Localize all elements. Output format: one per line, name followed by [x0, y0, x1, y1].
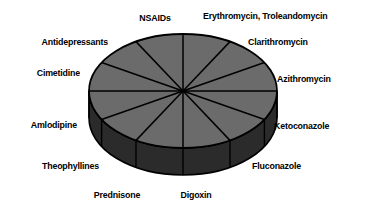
- label-azithromycin: Azithromycin: [277, 73, 331, 84]
- pie-top-face: [89, 34, 277, 148]
- label-digoxin: Digoxin: [168, 189, 224, 200]
- label-amlodipine: Amlodipine: [5, 119, 77, 130]
- label-theophyllines: Theophyllines: [7, 160, 99, 171]
- label-fluconazole: Fluconazole: [252, 160, 301, 171]
- pie-chart-graphic: [0, 0, 373, 211]
- label-nsaids: NSAIDs: [113, 12, 197, 23]
- label-clarithromycin: Clarithromycin: [248, 36, 308, 47]
- label-ketoconazole: Ketoconazole: [274, 120, 329, 131]
- label-antidepressants: Antidepressants: [8, 36, 108, 47]
- label-erythromycin-troleandomycin: Erythromycin, Troleandomycin: [203, 10, 327, 21]
- pie-chart-figure: NSAIDs Erythromycin, Troleandomycin Clar…: [0, 0, 373, 211]
- label-prednisone: Prednisone: [83, 189, 152, 200]
- label-cimetidine: Cimetidine: [6, 67, 80, 78]
